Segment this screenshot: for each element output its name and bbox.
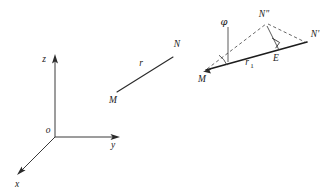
- segment-mn-line: [117, 57, 173, 92]
- vertex-n-prime-label: N': [310, 29, 320, 39]
- segment-m-label: M: [108, 95, 118, 105]
- segment-r-label: r: [139, 58, 143, 68]
- r1-subscript: 1: [250, 62, 254, 70]
- vertex-m-label: M: [197, 74, 207, 84]
- triangle-base-mn-prime: [206, 42, 307, 70]
- x-axis-line: [22, 137, 55, 170]
- z-axis-label: z: [41, 54, 46, 64]
- figure-canvas: z y x o r M N: [0, 0, 330, 192]
- origin-label: o: [46, 125, 51, 135]
- base-length-label-r1: r 1: [245, 57, 254, 70]
- point-e-label: E: [272, 53, 279, 63]
- x-axis-label: x: [14, 179, 20, 189]
- geometry-diagram: z y x o r M N: [0, 0, 330, 192]
- coordinate-axes-group: z y x o: [14, 54, 120, 189]
- angle-phi-label: φ: [220, 16, 227, 27]
- r1-letter: r: [245, 57, 249, 67]
- segment-n-label: N: [173, 39, 181, 49]
- projection-triangle-group: φ N″ N' M E r 1: [197, 9, 320, 84]
- segment-mn-group: r M N: [108, 39, 181, 105]
- y-axis-label: y: [110, 140, 116, 150]
- vertex-n-double-prime-label: N″: [258, 9, 270, 19]
